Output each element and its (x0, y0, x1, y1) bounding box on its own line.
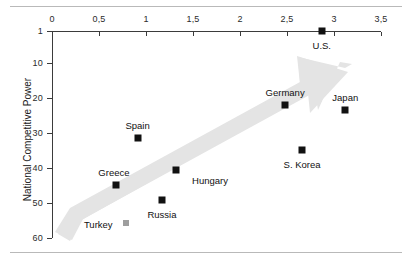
data-point-label: S. Korea (284, 159, 321, 170)
y-axis-tick-label: 1 (0, 26, 43, 36)
data-point-label: Hungary (192, 174, 228, 185)
x-axis-tick (146, 32, 147, 36)
x-axis-tick (193, 32, 194, 36)
y-axis-tick (47, 98, 52, 99)
y-axis-title: National Competitive Power (22, 60, 33, 220)
x-axis-tick-label: 0 (49, 14, 54, 24)
trend-arrow-icon (0, 0, 411, 262)
x-axis-tick (287, 32, 288, 36)
data-point-label: U.S. (313, 40, 331, 51)
data-point-marker[interactable] (123, 220, 129, 226)
y-axis-tick (47, 63, 52, 64)
y-axis-line (52, 31, 53, 238)
y-axis-tick (47, 133, 52, 134)
data-point-marker[interactable] (158, 197, 165, 204)
data-point-marker[interactable] (342, 106, 349, 113)
data-point-label: Greece (98, 167, 129, 178)
x-axis-tick-label: 0,5 (92, 14, 105, 24)
y-axis-tick (47, 168, 52, 169)
x-axis-tick-label: 1,5 (186, 14, 199, 24)
figure-container: 00,511,522,533,5 1102030405060 National … (0, 0, 411, 262)
data-point-marker[interactable] (134, 135, 141, 142)
data-point-marker[interactable] (299, 147, 306, 154)
data-point-marker[interactable] (173, 166, 180, 173)
x-axis-tick (334, 32, 335, 36)
y-axis-tick (47, 238, 52, 239)
x-axis-tick-label: 1 (143, 14, 148, 24)
x-axis-tick (99, 32, 100, 36)
x-axis-tick-label: 2 (237, 14, 242, 24)
data-point-marker[interactable] (112, 182, 119, 189)
data-point-label: Russia (147, 209, 176, 220)
y-axis-tick (47, 31, 52, 32)
x-axis-tick-label: 2,5 (280, 14, 293, 24)
data-point-label: Germany (266, 86, 305, 97)
x-axis-tick (240, 32, 241, 36)
data-point-label: Spain (125, 120, 149, 131)
y-axis-tick-label: 60 (0, 233, 43, 243)
x-axis-tick-label: 3,5 (374, 14, 387, 24)
data-point-marker[interactable] (282, 101, 289, 108)
x-axis-line (52, 31, 381, 32)
x-axis-tick (381, 32, 382, 36)
x-axis-tick (52, 32, 53, 36)
y-axis-tick (47, 203, 52, 204)
data-point-label: Japan (332, 91, 358, 102)
data-point-label: Turkey (84, 218, 113, 229)
x-axis-tick-label: 3 (331, 14, 336, 24)
scatter-plot: 00,511,522,533,5 1102030405060 National … (0, 0, 411, 262)
data-point-marker[interactable] (318, 28, 325, 35)
